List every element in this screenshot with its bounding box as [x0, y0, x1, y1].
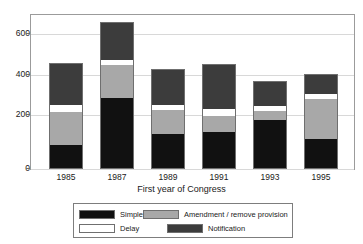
segment-simple [304, 139, 338, 169]
bar-1995[interactable] [304, 74, 338, 169]
legend-swatch-delay [79, 224, 115, 233]
segment-simple [49, 145, 83, 170]
chart-title [0, 0, 363, 6]
segment-notification [151, 69, 185, 105]
segment-amendment [202, 116, 236, 131]
segment-notification [100, 22, 134, 61]
y-tick-mark-0 [26, 168, 30, 169]
bar-1987[interactable] [100, 22, 134, 169]
segment-notification [202, 64, 236, 110]
segment-simple [202, 132, 236, 169]
segment-amendment [304, 99, 338, 139]
segment-delay [49, 105, 83, 112]
legend-label-amendment: Amendment / remove provision [184, 210, 288, 219]
bars-layer [31, 15, 354, 169]
segment-notification [253, 81, 287, 106]
legend-swatch-notification [167, 224, 203, 233]
segment-notification [304, 74, 338, 94]
gridline-0 [31, 169, 354, 170]
y-tick-mark-600 [26, 33, 30, 34]
x-tick-label-1987: 1987 [92, 172, 142, 183]
y-tick-mark-400 [26, 74, 30, 75]
x-tick-label-1993: 1993 [245, 172, 295, 183]
segment-amendment [100, 65, 134, 98]
legend-entry-amendment[interactable]: Amendment / remove provision [143, 210, 288, 219]
legend-label-notification: Notification [208, 224, 245, 233]
bar-1985[interactable] [49, 63, 83, 169]
legend-label-simple: Simple [120, 210, 143, 219]
legend-row: Simple Amendment / remove provision [79, 208, 287, 220]
segment-simple [151, 134, 185, 169]
legend-entry-simple[interactable]: Simple [79, 210, 143, 219]
segment-delay [202, 109, 236, 116]
x-tick-label-1991: 1991 [194, 172, 244, 183]
x-tick-label-1995: 1995 [296, 172, 346, 183]
bar-1989[interactable] [151, 69, 185, 169]
chart-legend: Simple Amendment / remove provision Dela… [73, 203, 293, 238]
legend-row: Delay Notification [79, 222, 287, 234]
y-tick-mark-200 [26, 114, 30, 115]
bar-1991[interactable] [202, 64, 236, 169]
legend-swatch-simple [79, 210, 115, 219]
bar-1993[interactable] [253, 81, 287, 169]
x-axis: 1985 1987 1989 1991 1993 1995 [31, 172, 354, 184]
x-tick-label-1985: 1985 [41, 172, 91, 183]
legend-label-delay: Delay [120, 224, 139, 233]
segment-simple [253, 120, 287, 169]
legend-swatch-amendment [143, 210, 179, 219]
y-axis: 600 400 200 0 [0, 14, 30, 170]
segment-notification [49, 63, 83, 105]
x-axis-title: First year of Congress [0, 184, 363, 194]
segment-simple [100, 98, 134, 169]
legend-entry-notification[interactable]: Notification [167, 224, 287, 233]
x-tick-label-1989: 1989 [143, 172, 193, 183]
legend-entry-delay[interactable]: Delay [79, 224, 167, 233]
segment-amendment [151, 110, 185, 135]
segment-amendment [253, 111, 287, 120]
chart-figure: 600 400 200 0 [0, 0, 363, 244]
segment-amendment [49, 112, 83, 145]
